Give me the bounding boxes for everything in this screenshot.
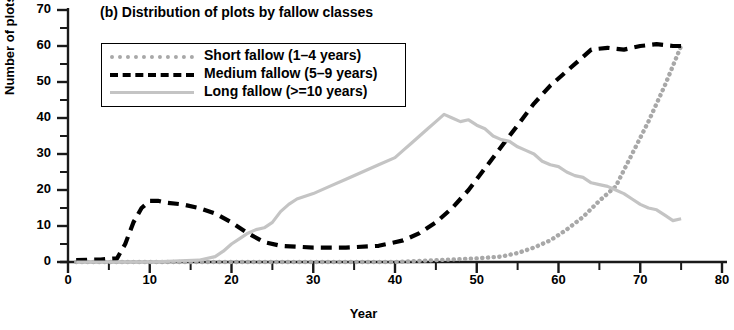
legend-label: Medium fallow (5–9 years)	[204, 65, 378, 81]
legend-line-sample-long-fallow	[110, 91, 194, 98]
y-tick-label: 50	[21, 73, 51, 88]
x-tick-label: 10	[130, 272, 170, 287]
legend-line-sample-short-fallow	[110, 55, 194, 63]
y-tick-label: 40	[21, 109, 51, 124]
y-tick-label: 60	[21, 37, 51, 52]
x-tick-label: 80	[702, 272, 734, 287]
legend-item: Medium fallow (5–9 years)	[110, 65, 400, 83]
legend-label: Long fallow (>=10 years)	[204, 83, 367, 99]
legend-line-sample-medium-fallow	[110, 73, 194, 81]
y-tick-label: 10	[21, 217, 51, 232]
y-tick-label: 0	[21, 253, 51, 268]
x-tick-label: 20	[212, 272, 252, 287]
x-tick-label: 0	[48, 272, 88, 287]
y-tick-label: 20	[21, 181, 51, 196]
series-line-2	[76, 114, 681, 262]
legend-label: Short fallow (1–4 years)	[204, 47, 361, 63]
y-tick-label: 30	[21, 145, 51, 160]
legend-item: Short fallow (1–4 years)	[110, 47, 400, 65]
y-tick-label: 70	[21, 1, 51, 16]
x-tick-label: 70	[620, 272, 660, 287]
x-tick-label: 60	[539, 272, 579, 287]
legend-item: Long fallow (>=10 years)	[110, 83, 400, 101]
x-tick-label: 30	[293, 272, 333, 287]
x-tick-label: 50	[457, 272, 497, 287]
chart-legend: Short fallow (1–4 years) Medium fallow (…	[101, 43, 406, 107]
x-tick-label: 40	[375, 272, 415, 287]
